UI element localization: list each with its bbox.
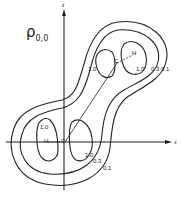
title-symbol: ρ [26, 23, 36, 41]
atom-c-upper: C [114, 58, 118, 64]
label-0.1-lower: 0.1 [103, 165, 111, 171]
x-axis-arrow [165, 140, 172, 144]
label-1.0-upper-right: 1.0 [136, 66, 144, 72]
label-1.0-upper-left: 1.0 [88, 66, 96, 72]
ch-bond-upper [117, 55, 133, 63]
contour-0.1 [11, 22, 167, 186]
label-0.1-upper: 0.1 [161, 66, 169, 72]
label-0.3-lower: 0.3 [93, 158, 101, 164]
z-axis-label: z [62, 2, 64, 8]
contour-1.0-upper-left [96, 50, 115, 78]
plot-title: ρ0,0 [26, 23, 48, 43]
x-axis-label: x [174, 139, 177, 145]
atom-h-upper: H [132, 50, 136, 56]
atom-c-lower: C [61, 138, 65, 144]
title-subscript: 0,0 [36, 34, 49, 43]
atom-h-lower: H [44, 138, 48, 144]
z-axis-arrow [62, 9, 66, 16]
label-0.3-upper: 0.3 [151, 66, 159, 72]
contour-diagram: ρ0,0 z x C H 1.0 1.0 0.3 0.1 C H 1.0 1.0… [0, 0, 182, 198]
label-1.0-lower-left: 1.0 [40, 124, 48, 130]
